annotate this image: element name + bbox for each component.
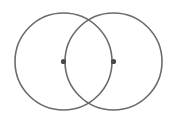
right-center-point: [111, 59, 116, 64]
intersecting-circles-diagram: [0, 0, 171, 124]
left-center-point: [61, 59, 66, 64]
